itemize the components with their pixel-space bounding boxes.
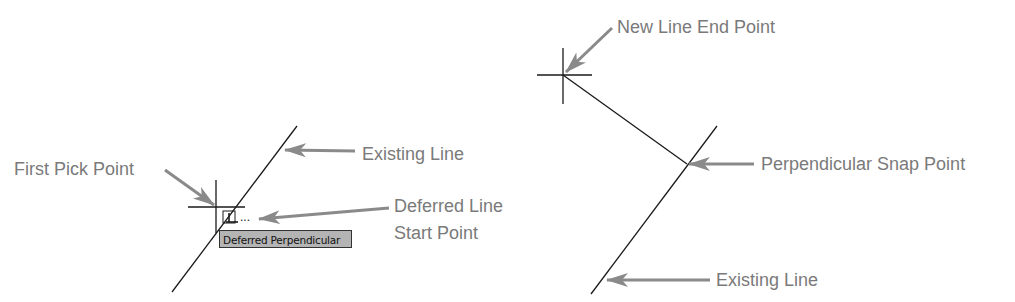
existing-line-right <box>591 126 717 294</box>
existing-line-label-right: Existing Line <box>716 271 818 289</box>
right-panel <box>537 28 754 294</box>
new-line-end-point-label: New Line End Point <box>617 18 775 36</box>
perpendicular-snap-point-label: Perpendicular Snap Point <box>761 155 965 173</box>
existing-line-left <box>172 126 297 292</box>
snap-marker-ellipsis: ... <box>240 211 250 223</box>
diagram-canvas <box>0 0 1015 302</box>
existing-line-label-left: Existing Line <box>362 145 464 163</box>
existing-line-left-arrow <box>285 150 355 151</box>
left-panel <box>165 126 389 292</box>
deferred-perpendicular-tooltip: Deferred Perpendicular <box>219 230 352 248</box>
new-perpendicular-line <box>563 75 687 164</box>
deferred-line-start-label-line2: Start Point <box>394 224 478 242</box>
first-pick-point-arrow <box>165 170 214 205</box>
deferred-line-start-arrow <box>259 208 389 219</box>
first-pick-point-label: First Pick Point <box>14 160 134 178</box>
deferred-line-start-label-line1: Deferred Line <box>394 197 503 215</box>
new-line-end-point-arrow <box>566 28 612 72</box>
crosshair-cursor-icon <box>188 180 245 233</box>
